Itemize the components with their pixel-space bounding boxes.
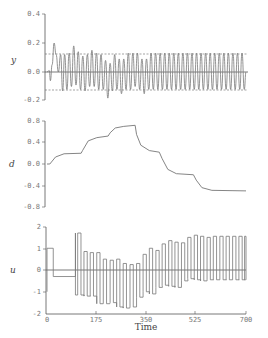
panel-u: 2 1 0 -1 -2 0 175 350 525 700 Time u	[10, 223, 252, 332]
tick-top-1: 0.2	[27, 39, 40, 47]
panel-y: 0.4 0.2 0.0 -0.2 y	[10, 10, 248, 104]
xtick-4: 700	[240, 316, 253, 324]
xtick-0: 0	[45, 316, 49, 324]
series-d	[47, 125, 246, 191]
chart-canvas: 0.4 0.2 0.0 -0.2 y 0.8 0.4 0.0 -0.4 -0.8…	[0, 0, 268, 338]
series-u	[47, 233, 246, 308]
tick-bot-2: 0	[37, 266, 41, 274]
ylabel-top: y	[10, 55, 17, 65]
tick-mid-4: -0.8	[23, 203, 40, 211]
tick-mid-1: 0.4	[27, 138, 40, 146]
panel-d: 0.8 0.4 0.0 -0.4 -0.8 d	[9, 117, 246, 211]
tick-bot-3: -1	[33, 288, 41, 296]
ylabel-mid: d	[9, 159, 15, 169]
tick-mid-0: 0.8	[27, 117, 40, 125]
xtick-3: 525	[189, 316, 202, 324]
tick-top-0: 0.4	[27, 10, 40, 18]
tick-mid-3: -0.4	[23, 182, 40, 190]
tick-top-2: 0.0	[27, 68, 40, 76]
tick-bot-4: -2	[33, 310, 41, 318]
tick-top-3: -0.2	[23, 96, 40, 104]
tick-bot-1: 1	[37, 245, 41, 253]
tick-mid-2: 0.0	[27, 160, 40, 168]
ylabel-bot: u	[10, 265, 16, 275]
xtick-1: 175	[90, 316, 103, 324]
tick-bot-0: 2	[37, 223, 41, 231]
xlabel: Time	[135, 322, 158, 332]
